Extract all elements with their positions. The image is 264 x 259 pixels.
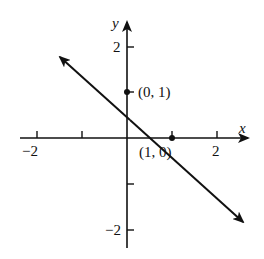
point-x-intercept bbox=[169, 135, 175, 141]
x-tick-label-neg2: −2 bbox=[22, 143, 38, 159]
x-axis-label: x bbox=[238, 120, 246, 136]
line-y-equals-1-minus-x bbox=[60, 57, 130, 120]
y-tick-label-2: 2 bbox=[113, 39, 121, 55]
y-tick-label-neg2: −2 bbox=[105, 222, 121, 238]
line-y-equals-1-minus-x-lower bbox=[130, 120, 243, 222]
point-label-1-0: (1, 0) bbox=[139, 144, 172, 161]
x-tick-label-2: 2 bbox=[212, 143, 220, 159]
coordinate-plane: x y −2 2 2 −2 (0, 1) (1, 0) bbox=[0, 0, 264, 259]
point-label-0-1: (0, 1) bbox=[138, 84, 171, 101]
y-axis-label: y bbox=[110, 15, 119, 31]
point-y-intercept bbox=[124, 89, 130, 95]
